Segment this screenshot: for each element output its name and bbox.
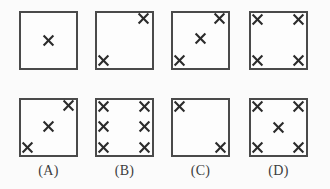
x-top-right-icon: [62, 99, 75, 112]
option-label-b: (B): [95, 163, 154, 179]
x-bottom-left-icon: [21, 141, 34, 154]
x-top-left-icon: [251, 13, 264, 26]
x-top-right-icon: [138, 100, 151, 113]
option-label-row: (A)(B)(C)(D): [0, 163, 330, 185]
x-middle-left-icon: [97, 120, 110, 133]
x-bottom-right-icon: [292, 54, 305, 67]
panel-row-bottom: [0, 98, 330, 158]
x-top-left-icon: [97, 100, 110, 113]
x-bottom-left-icon: [251, 54, 264, 67]
x-bottom-left-icon: [173, 54, 186, 67]
option-label-a: (A): [19, 163, 78, 179]
x-middle-right-icon: [138, 120, 151, 133]
x-center-icon: [194, 32, 207, 45]
x-bottom-left-icon: [97, 141, 110, 154]
option-label-d: (D): [249, 163, 308, 179]
x-bottom-left-icon: [251, 141, 264, 154]
panel-option-d[interactable]: [249, 98, 308, 157]
x-bottom-right-icon: [292, 141, 305, 154]
panel-option-c[interactable]: [171, 98, 230, 157]
x-top-left-icon: [251, 100, 264, 113]
figure-sheet: (A)(B)(C)(D): [0, 0, 330, 189]
x-top-right-icon: [292, 13, 305, 26]
x-top-right-icon: [292, 100, 305, 113]
x-bottom-left-icon: [97, 54, 110, 67]
panel-top-4[interactable]: [249, 11, 308, 70]
x-bottom-right-icon: [214, 141, 227, 154]
panel-option-a[interactable]: [19, 98, 78, 157]
panel-row-top: [0, 11, 330, 71]
option-label-c: (C): [171, 163, 230, 179]
x-top-left-icon: [173, 100, 186, 113]
x-center-icon: [42, 34, 55, 47]
panel-top-2[interactable]: [95, 11, 154, 70]
x-bottom-right-icon: [138, 141, 151, 154]
x-center-icon: [272, 121, 285, 134]
panel-top-3[interactable]: [171, 11, 230, 70]
panel-option-b[interactable]: [95, 98, 154, 157]
x-top-right-icon: [137, 12, 150, 25]
panel-top-1[interactable]: [19, 11, 78, 70]
x-top-right-icon: [213, 12, 226, 25]
x-center-icon: [42, 120, 55, 133]
